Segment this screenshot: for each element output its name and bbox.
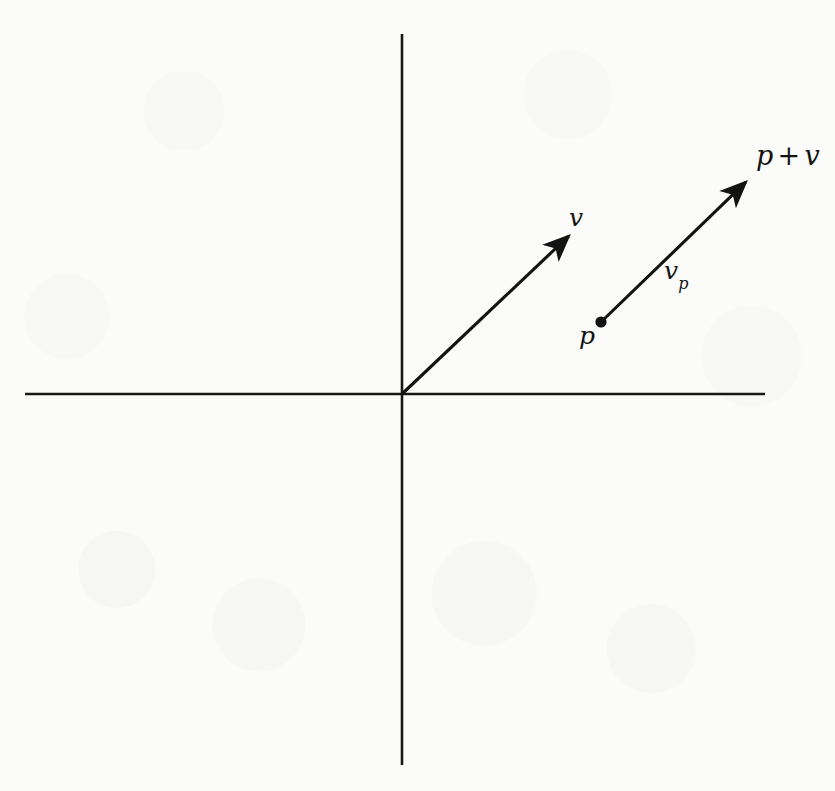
label-v-base: v <box>664 256 678 285</box>
label-point-p: p <box>579 323 595 348</box>
figure-canvas <box>0 0 835 791</box>
label-p-plus-v: p+v <box>756 142 820 169</box>
vector-v-p <box>601 182 746 322</box>
label-sum-right: v <box>805 140 820 171</box>
cartesian-axes <box>25 34 765 765</box>
vector-v-p-shaft <box>601 182 746 322</box>
vector-v-shaft <box>402 236 569 394</box>
vector-v <box>402 236 569 394</box>
plus-operator-icon: + <box>773 140 804 171</box>
vector-diagram-figure: v p vp p+v <box>0 0 835 791</box>
label-v-subscript: p <box>678 274 688 293</box>
label-vector-v-sub-p: vp <box>664 258 688 288</box>
label-vector-v: v <box>569 205 583 230</box>
label-sum-left: p <box>756 140 773 171</box>
point-p-dot <box>595 316 606 327</box>
